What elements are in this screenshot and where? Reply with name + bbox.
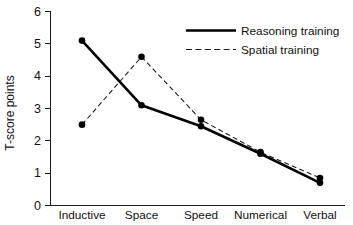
data-point-reasoning-training [198, 123, 205, 130]
y-tick-label-1: 1 [34, 166, 41, 180]
y-tick-label-6: 6 [34, 5, 41, 19]
data-point-reasoning-training [257, 150, 264, 157]
y-tick-label-0: 0 [34, 199, 41, 213]
legend-label-reasoning-training: Reasoning training [241, 24, 339, 38]
series-line-reasoning-training [82, 41, 320, 183]
data-point-spatial-training [79, 121, 86, 128]
chart-container: T-score points 0 1 2 3 4 5 6 [0, 0, 353, 225]
data-point-spatial-training [138, 53, 145, 60]
chart-legend: Reasoning training Spatial training [186, 24, 339, 57]
x-axis-label-space: Space [125, 208, 159, 222]
x-axis-label-speed: Speed [184, 208, 218, 222]
data-point-reasoning-training [317, 180, 324, 187]
x-axis-label-verbal: Verbal [303, 208, 336, 222]
legend-label-spatial-training: Spatial training [241, 43, 319, 57]
data-point-reasoning-training [138, 102, 145, 109]
y-tick-label-4: 4 [34, 69, 41, 83]
x-axis-category-labels: InductiveSpaceSpeedNumericalVerbal [58, 208, 336, 222]
data-point-spatial-training [198, 117, 205, 124]
line-chart: T-score points 0 1 2 3 4 5 6 [0, 0, 353, 225]
y-axis-title: T-score points [3, 75, 17, 150]
y-tick-label-2: 2 [34, 134, 41, 148]
y-tick-label-5: 5 [34, 37, 41, 51]
x-axis-label-numerical: Numerical [234, 208, 287, 222]
y-tick-label-3: 3 [34, 102, 41, 116]
data-point-reasoning-training [79, 37, 86, 44]
y-axis-ticks: 0 1 2 3 4 5 6 [34, 5, 50, 213]
series-markers-spatial-training [79, 53, 324, 181]
x-axis-label-inductive: Inductive [58, 208, 106, 222]
